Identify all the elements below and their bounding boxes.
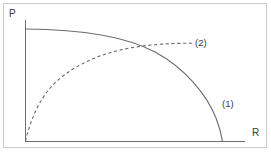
curve-1-label: (1) [222, 98, 234, 109]
plot-canvas [0, 0, 271, 152]
curve-2-dashed [26, 43, 193, 141]
figure-container: P R (1) (2) [0, 0, 271, 152]
curve-2-label: (2) [195, 37, 207, 48]
x-axis-label: R [252, 127, 259, 138]
curve-1-solid [26, 29, 223, 141]
y-axis-label: P [9, 8, 16, 19]
